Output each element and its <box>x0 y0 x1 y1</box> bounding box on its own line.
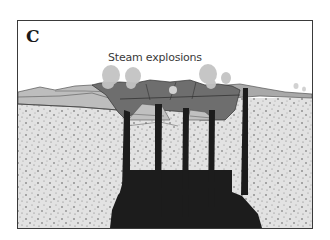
caption-steam-explosions: Steam explosions <box>108 51 202 64</box>
cross-section-diagram <box>0 0 330 240</box>
panel-label: C <box>26 26 40 46</box>
